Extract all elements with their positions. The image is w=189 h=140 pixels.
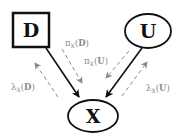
node-x-label: X — [86, 105, 101, 127]
node-d-label: D — [23, 19, 39, 41]
edge-u-to-x — [106, 48, 142, 97]
label-lambda-x-d: λX(D) — [11, 82, 35, 93]
message-lambda-x-u-arrow — [122, 62, 147, 96]
label-pi-x-d: πX(D) — [65, 38, 89, 49]
node-u-label: U — [140, 20, 157, 42]
label-pi-x-u: πX(U) — [84, 56, 108, 67]
message-pi-x-d-arrow — [62, 49, 82, 83]
node-d: D — [13, 13, 49, 47]
edge-d-to-x — [46, 48, 79, 97]
message-pi-x-u-arrow — [106, 51, 129, 78]
message-lambda-x-d-arrow — [35, 63, 58, 97]
node-x: X — [68, 100, 118, 132]
label-lambda-x-u: λX(U) — [146, 83, 170, 94]
node-u: U — [125, 14, 171, 48]
diagram-canvas: D U X πX(D) πX(U) λX(D) λX(U) — [0, 0, 189, 140]
